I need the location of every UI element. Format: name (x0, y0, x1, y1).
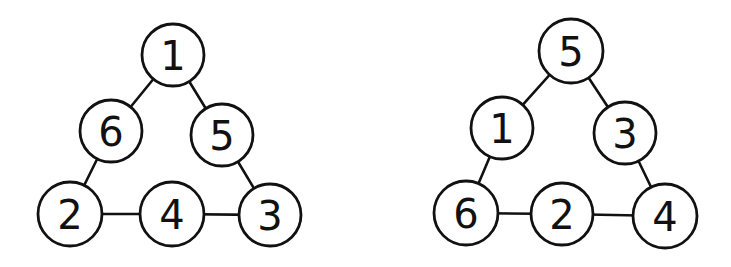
node-label: 4 (652, 194, 677, 240)
node-label: 3 (612, 111, 637, 157)
left-triangle-nodes: 165243 (38, 24, 301, 246)
right-triangle-nodes: 513624 (434, 19, 697, 248)
node-label: 5 (209, 113, 234, 159)
node-label: 4 (159, 192, 184, 238)
node-label: 1 (489, 106, 514, 152)
node-label: 5 (558, 29, 583, 75)
node-left-mid: 1 (471, 97, 533, 159)
node-bottom-right: 3 (239, 184, 301, 246)
magic-triangle-diagram: 165243 513624 (0, 0, 731, 267)
node-bottom-right: 4 (633, 184, 697, 248)
node-right-mid: 3 (594, 102, 656, 164)
node-right-mid: 5 (191, 104, 253, 166)
node-label: 2 (57, 192, 82, 238)
node-label: 1 (160, 33, 185, 79)
node-top: 5 (539, 19, 603, 83)
node-left-mid: 6 (80, 100, 142, 162)
left-triangle: 165243 (38, 24, 301, 246)
node-label: 6 (453, 191, 478, 237)
node-bottom-mid: 4 (140, 182, 204, 246)
node-label: 2 (549, 192, 574, 238)
right-triangle: 513624 (434, 19, 697, 248)
node-label: 3 (257, 193, 282, 239)
node-bottom-left: 6 (434, 181, 498, 245)
node-bottom-left: 2 (38, 182, 102, 246)
node-top: 1 (142, 24, 204, 86)
node-bottom-mid: 2 (531, 183, 593, 245)
node-label: 6 (98, 109, 123, 155)
